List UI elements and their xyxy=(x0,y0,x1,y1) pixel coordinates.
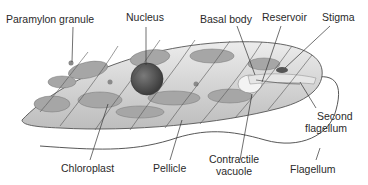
label-basal-body: Basal body xyxy=(200,13,252,25)
label-second-flagellum-line1: Second xyxy=(305,110,365,122)
label-contractile-vacuole: Contractile vacuole xyxy=(204,153,264,177)
stigma xyxy=(276,67,288,73)
label-reservoir: Reservoir xyxy=(262,11,307,23)
label-stigma: Stigma xyxy=(322,11,355,23)
euglena-illustration xyxy=(0,0,368,185)
label-second-flagellum: Second flagellum xyxy=(305,110,365,134)
label-pellicle: Pellicle xyxy=(153,162,186,174)
label-chloroplast: Chloroplast xyxy=(61,162,114,174)
euglena-diagram: Paramylon granule Nucleus Basal body Res… xyxy=(0,0,368,185)
label-contractile-vacuole-line2: vacuole xyxy=(204,165,264,177)
label-second-flagellum-line2: flagellum xyxy=(305,122,365,134)
label-paramylon-granule: Paramylon granule xyxy=(6,13,94,25)
nucleus xyxy=(131,63,163,95)
label-contractile-vacuole-line1: Contractile xyxy=(204,153,264,165)
label-flagellum: Flagellum xyxy=(290,163,336,175)
label-nucleus: Nucleus xyxy=(126,11,164,23)
